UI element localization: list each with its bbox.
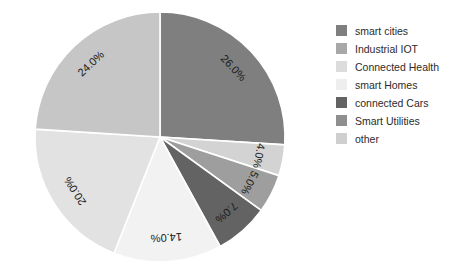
pie-chart-figure: 26.0% 4.0% 5.0% 7.0% 14.0% 20.0% 24.0% s… <box>0 0 466 274</box>
legend-item-connected-cars[interactable]: connected Cars <box>336 96 462 109</box>
legend-item-label: Connected Health <box>355 61 439 73</box>
chart-legend: smart cities Industrial IOT Connected He… <box>336 24 462 145</box>
legend-item-label: Industrial IOT <box>355 43 418 55</box>
legend-swatch-icon <box>336 97 347 108</box>
pie-slices <box>35 12 285 262</box>
slice-label-14: 14.0% <box>150 231 182 245</box>
legend-item-smart-cities[interactable]: smart cities <box>336 24 462 37</box>
pie-slice-other[interactable] <box>35 12 160 137</box>
pie-plot-area: 26.0% 4.0% 5.0% 7.0% 14.0% 20.0% 24.0% <box>0 0 320 274</box>
legend-item-other[interactable]: other <box>336 132 462 145</box>
legend-item-connected-health[interactable]: Connected Health <box>336 60 462 73</box>
legend-swatch-icon <box>336 115 347 126</box>
legend-item-smart-homes[interactable]: smart Homes <box>336 78 462 91</box>
legend-item-label: smart Homes <box>355 79 417 91</box>
legend-item-industrial-iot[interactable]: Industrial IOT <box>336 42 462 55</box>
legend-item-label: other <box>355 133 379 145</box>
pie-svg: 26.0% 4.0% 5.0% 7.0% 14.0% 20.0% 24.0% <box>0 0 320 274</box>
legend-swatch-icon <box>336 79 347 90</box>
legend-item-label: connected Cars <box>355 97 429 109</box>
legend-item-label: Smart Utilities <box>355 115 420 127</box>
legend-item-label: smart cities <box>355 25 408 37</box>
legend-item-smart-utilities[interactable]: Smart Utilities <box>336 114 462 127</box>
legend-swatch-icon <box>336 133 347 144</box>
legend-swatch-icon <box>336 25 347 36</box>
legend-swatch-icon <box>336 61 347 72</box>
pie-slice-smart-cities[interactable] <box>160 12 285 145</box>
legend-swatch-icon <box>336 43 347 54</box>
